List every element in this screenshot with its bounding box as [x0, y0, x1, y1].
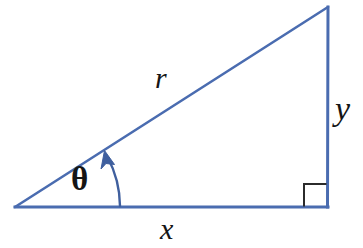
triangle-figure: r y x θ [0, 0, 363, 248]
triangle-drawing [0, 0, 363, 248]
hypotenuse-line [15, 7, 328, 207]
right-angle-marker-icon [304, 184, 327, 207]
vertical-leg-line [328, 7, 329, 207]
vertical-leg-label: y [335, 92, 350, 126]
angle-label: θ [71, 163, 88, 196]
horizontal-leg-label: x [160, 214, 173, 244]
hypotenuse-label: r [155, 63, 167, 93]
